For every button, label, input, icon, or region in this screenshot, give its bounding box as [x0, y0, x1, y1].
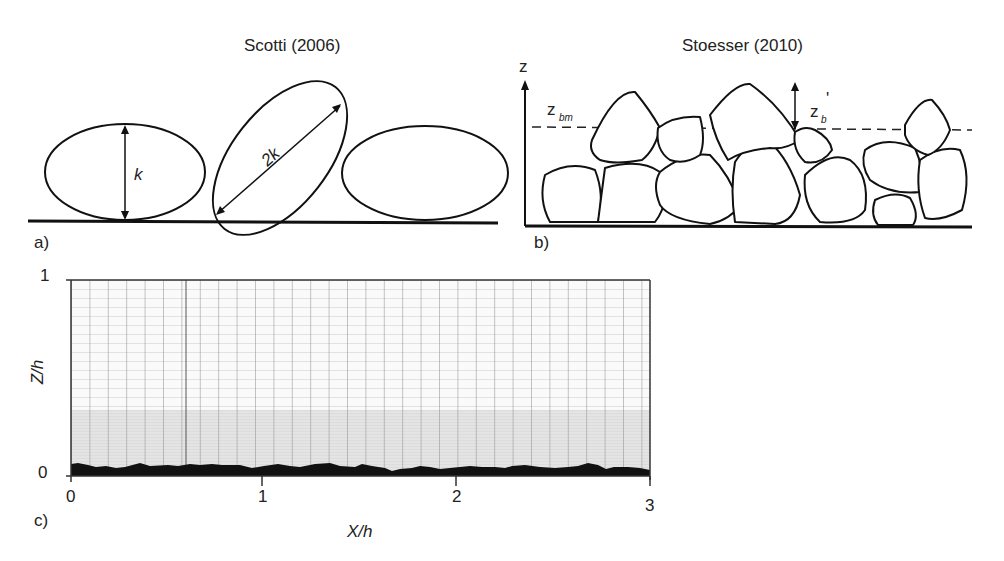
- k-label: k: [134, 165, 144, 184]
- panel-a-label: a): [34, 233, 49, 253]
- panel-b-label: b): [534, 233, 549, 253]
- panel-b-diagram: z z bm z b ': [510, 0, 1004, 240]
- zb-label: z: [810, 102, 819, 121]
- x-axis-label: X/h: [347, 522, 373, 542]
- zb-sub: b: [821, 114, 827, 125]
- xtick-2: 2: [452, 487, 461, 507]
- xtick-3: 3: [645, 496, 654, 516]
- zbm-sub: bm: [559, 112, 573, 123]
- panel-c-label: c): [34, 511, 48, 531]
- ellipse-tilted: [187, 58, 373, 240]
- xtick-0: 0: [66, 487, 75, 507]
- ytick-1: 1: [40, 266, 49, 286]
- panel-a-diagram: k 2k: [0, 0, 510, 240]
- ellipse-right: [342, 126, 508, 220]
- 2k-label: 2k: [257, 143, 285, 171]
- ytick-0: 0: [38, 463, 47, 483]
- zb-prime: ': [826, 89, 829, 108]
- z-axis-label: z: [519, 57, 528, 76]
- panel-c-mesh-chart: [0, 260, 700, 561]
- y-axis-label: Z/h: [28, 360, 48, 385]
- zbm-label: z: [547, 100, 556, 119]
- xtick-1: 1: [258, 487, 267, 507]
